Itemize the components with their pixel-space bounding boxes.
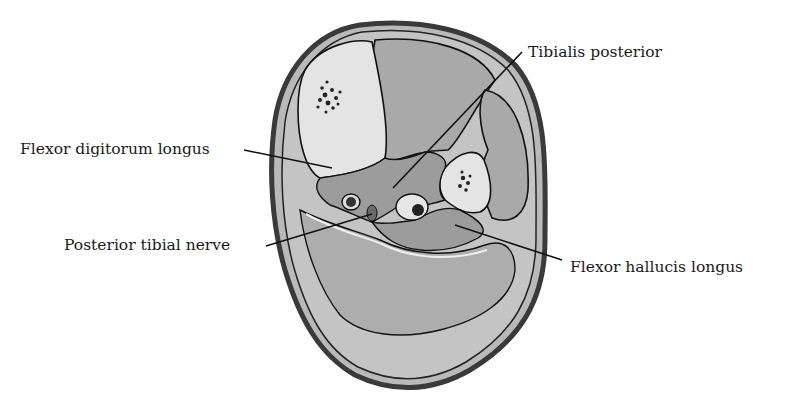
tibia-bone: [298, 41, 386, 178]
label-tibialis-posterior: Tibialis posterior: [528, 45, 662, 61]
cross-section-illustration: [0, 0, 788, 401]
peroneal-vessel-lumen: [412, 204, 424, 216]
label-flexor-hallucis-longus: Flexor hallucis longus: [570, 260, 743, 276]
leg-cross-section-diagram: Tibialis posterior Flexor digitorum long…: [0, 0, 788, 401]
label-posterior-tibial-nerve: Posterior tibial nerve: [64, 238, 230, 254]
peroneal-vessel: [396, 194, 428, 220]
vessel-lumen: [346, 197, 356, 207]
posterior-tibial-nerve-shape: [367, 205, 377, 221]
label-flexor-digitorum-longus: Flexor digitorum longus: [20, 142, 210, 158]
